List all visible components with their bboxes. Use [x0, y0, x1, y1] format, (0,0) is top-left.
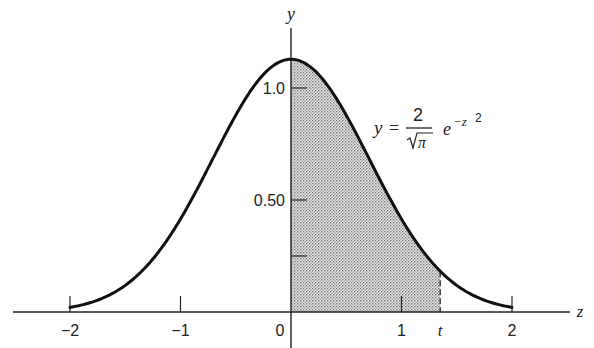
shaded-area	[291, 59, 440, 312]
x-tick-label: 2	[508, 322, 517, 339]
formula-denominator: π	[418, 134, 427, 151]
x-tick-label: 1	[397, 322, 406, 339]
y-tick-label: 1.0	[263, 80, 285, 97]
function-label: y = 2 π e −z 2	[372, 105, 482, 151]
x-tick-label: 0	[276, 322, 285, 339]
formula-exponent: −z	[453, 114, 467, 129]
y-tick-label: 0.50	[254, 192, 285, 209]
x-tick-label: −1	[171, 322, 189, 339]
formula-numerator: 2	[413, 105, 423, 125]
formula-lhs: y	[372, 117, 383, 138]
chart: −2−1012t0.501.0zy y = 2 π e −z 2	[0, 0, 594, 348]
t-label: t	[438, 321, 444, 340]
formula-exp-base: e	[443, 119, 451, 139]
x-axis-label: z	[576, 302, 584, 321]
y-axis-label: y	[285, 4, 295, 24]
x-tick-label: −2	[61, 322, 79, 339]
formula-exponent-power: 2	[475, 111, 482, 125]
formula-equals: =	[389, 118, 399, 138]
